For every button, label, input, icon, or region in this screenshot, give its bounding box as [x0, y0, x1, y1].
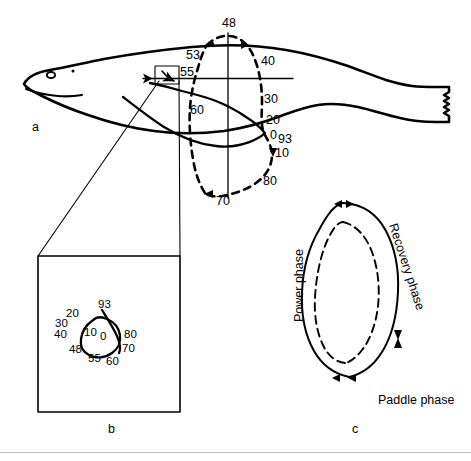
panel-b-label-20: 20	[66, 307, 79, 319]
panel-b-label-93: 93	[98, 298, 111, 310]
panel-c-arrow-right-up	[394, 338, 402, 348]
panel-a-label-20: 20	[266, 113, 280, 127]
seal-body-outline	[24, 45, 449, 133]
panel-c-outer-cycle-left	[302, 203, 349, 377]
panel-c-recovery-phase-label: Recovery phase	[386, 222, 427, 312]
panel-b-label-70: 70	[122, 342, 135, 354]
seal-mouth-line	[26, 89, 82, 96]
bottom-divider-rule	[0, 452, 471, 453]
panel-c-arrow-bottom-left	[332, 374, 340, 382]
panel-c-letter: c	[352, 422, 358, 436]
panel-c-inner-dashed-path	[343, 222, 379, 363]
panel-a-label-55: 55	[180, 65, 194, 79]
panel-a-label-53: 53	[186, 48, 200, 62]
panel-c-group: Power phase Recovery phase Paddle phase …	[292, 200, 455, 436]
panel-b-label-80: 80	[124, 328, 137, 340]
panel-a-label-40: 40	[261, 54, 275, 68]
panel-a-label-70: 70	[216, 194, 230, 208]
panel-b-label-40: 40	[54, 328, 67, 340]
panel-c-inner-dashed-return	[315, 222, 345, 363]
panel-b-loop-labels: 20 93 30 40 10 0 80 48 70 55 60	[54, 298, 137, 367]
panel-a-label-10: 10	[275, 146, 289, 160]
panel-a-letter: a	[32, 120, 39, 134]
panel-a-label-30: 30	[264, 92, 278, 106]
panel-a-label-93: 93	[278, 132, 292, 146]
scientific-figure-canvas: a 48 53 55 40 30 60 20 0 93 10 80 70	[0, 0, 471, 461]
figure-container: a 48 53 55 40 30 60 20 0 93 10 80 70	[0, 0, 471, 461]
seal-eye	[47, 72, 55, 78]
panel-c-paddle-phase-label: Paddle phase	[378, 393, 455, 407]
panel-b-label-48: 48	[69, 343, 82, 355]
panel-a-label-0: 0	[270, 128, 277, 142]
panel-a-group: a 48 53 55 40 30 60 20 0 93 10 80 70	[24, 16, 449, 256]
magnification-connector-right	[179, 81, 180, 256]
seal-whisker-dot	[72, 70, 75, 73]
panel-a-label-48: 48	[222, 16, 236, 30]
panel-b-letter: b	[108, 422, 115, 436]
seal-fore-flipper	[150, 83, 264, 132]
panel-b-label-55: 55	[88, 352, 101, 364]
panel-a-label-60: 60	[190, 103, 204, 117]
magnification-box-arrow	[162, 71, 174, 81]
panel-c-power-phase-label: Power phase	[292, 249, 306, 322]
magnification-connector-left	[38, 81, 159, 256]
panel-c-arrow-top-right	[346, 200, 354, 208]
panel-b-label-10: 10	[84, 326, 97, 338]
panel-b-label-60: 60	[106, 355, 119, 367]
panel-b-group: 20 93 30 40 10 0 80 48 70 55 60 b	[38, 256, 180, 436]
panel-a-label-80: 80	[263, 174, 277, 188]
panel-b-label-0: 0	[100, 330, 106, 342]
